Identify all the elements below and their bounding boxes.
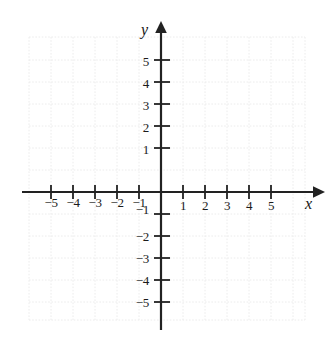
- x-tick-label-3: 3: [218, 199, 236, 212]
- y-tick-label-1: 1: [126, 143, 149, 156]
- y-tick-label--2: −2: [118, 230, 149, 243]
- y-axis-label: y: [141, 22, 148, 38]
- x-tick-label-2: 2: [196, 199, 214, 212]
- y-tick-label--1: −1: [118, 203, 149, 216]
- y-tick-label--3: −3: [118, 252, 149, 265]
- coordinate-plane-figure: −5 −4 −3 −2 −1 1 2 3 4 5 1 2 3 4 5 −1 −2…: [0, 0, 335, 340]
- y-tick-label--5: −5: [118, 296, 149, 309]
- y-tick-label--4: −4: [118, 274, 149, 287]
- y-tick-label-3: 3: [126, 99, 149, 112]
- y-tick-label-5: 5: [126, 55, 149, 68]
- x-tick-label-4: 4: [240, 199, 258, 212]
- coordinate-plane-canvas: [0, 0, 335, 340]
- y-tick-label-2: 2: [126, 121, 149, 134]
- x-tick-label-5: 5: [262, 199, 280, 212]
- x-axis-label: x: [305, 196, 312, 212]
- y-tick-label-4: 4: [126, 77, 149, 90]
- x-tick-label-1: 1: [174, 199, 192, 212]
